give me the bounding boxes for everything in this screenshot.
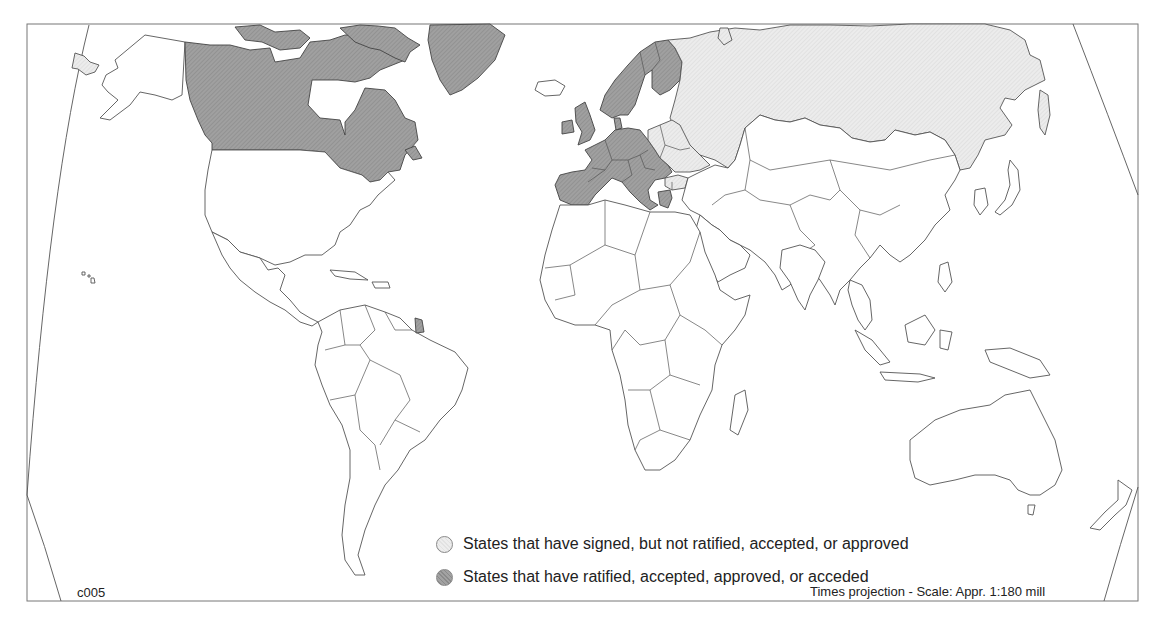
region-scandinavia <box>600 40 682 118</box>
region-southeast-asia <box>848 280 872 330</box>
region-chukotka <box>72 53 99 75</box>
world-map <box>0 0 1160 618</box>
projection-edge-left <box>27 25 89 495</box>
legend-label-ratified: States that have ratified, accepted, app… <box>463 568 869 586</box>
region-canada-arctic-islands <box>235 25 310 50</box>
map-code: c005 <box>77 585 105 600</box>
region-philippines <box>938 262 952 292</box>
projection-scale-note: Times projection - Scale: Appr. 1:180 mi… <box>810 584 1045 599</box>
legend-label-signed: States that have signed, but not ratifie… <box>463 535 909 553</box>
region-alaska <box>100 35 185 120</box>
region-cuba <box>330 270 368 280</box>
region-new-zealand <box>1090 480 1132 530</box>
legend-item-signed: States that have signed, but not ratifie… <box>436 531 909 557</box>
region-hawaii <box>82 272 95 283</box>
region-sakhalin-kamchatka <box>1038 90 1050 135</box>
region-borneo <box>905 315 935 345</box>
region-greenland <box>428 24 505 95</box>
region-ireland <box>562 120 574 134</box>
legend-swatch-ratified <box>436 569 453 586</box>
region-iceland <box>535 80 565 96</box>
legend-swatch-signed <box>436 536 453 553</box>
region-french-guiana <box>415 318 424 333</box>
region-india <box>780 245 825 310</box>
region-new-guinea <box>985 348 1050 378</box>
region-tasmania <box>1028 505 1035 515</box>
region-denmark <box>614 118 622 130</box>
region-japan <box>995 160 1020 215</box>
region-madagascar <box>730 390 748 435</box>
projection-edge-left-lower <box>27 495 61 601</box>
region-hispaniola <box>372 282 390 288</box>
projection-edge-right <box>1073 24 1138 195</box>
region-greece <box>658 190 672 208</box>
region-romania-bulgaria <box>665 175 688 190</box>
region-australia <box>910 390 1062 495</box>
region-sulawesi <box>940 330 952 350</box>
region-korea <box>974 188 988 215</box>
region-sumatra <box>855 330 890 365</box>
region-uk <box>575 102 595 145</box>
region-java <box>880 372 935 382</box>
